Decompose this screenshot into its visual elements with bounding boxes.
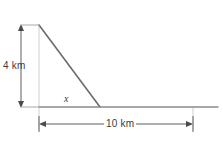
base-dimension-label: 10 km bbox=[104, 118, 136, 129]
base-dimension-arrow-left bbox=[39, 121, 46, 127]
angle-label-x: x bbox=[64, 93, 68, 104]
slope-diagram-figure: 4 km 10 km x bbox=[0, 0, 223, 142]
base-dimension-arrow-right bbox=[186, 121, 193, 127]
height-dimension-label: 4 km bbox=[3, 60, 25, 71]
hypotenuse-slope-line bbox=[39, 25, 100, 107]
